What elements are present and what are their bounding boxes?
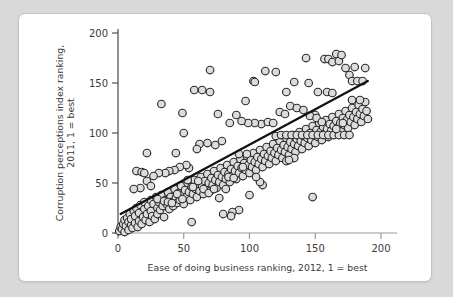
data-point <box>194 177 202 185</box>
chart-card: 050100150200050100150200 Ease of doing b… <box>18 13 432 282</box>
data-point <box>141 169 149 177</box>
data-point <box>158 100 166 108</box>
data-points-layer <box>116 50 372 236</box>
data-point <box>272 68 280 76</box>
data-point <box>206 88 214 96</box>
data-point <box>179 195 187 203</box>
data-point <box>309 193 317 201</box>
x-tick-label: 200 <box>371 243 390 254</box>
data-point <box>179 109 187 117</box>
y-tick-label: 50 <box>95 178 108 189</box>
data-point <box>329 89 337 97</box>
data-point <box>193 145 201 153</box>
data-point <box>130 185 138 193</box>
data-point <box>351 63 359 71</box>
data-point <box>363 107 371 115</box>
data-point <box>206 66 214 74</box>
data-point <box>318 118 326 126</box>
data-point <box>210 185 218 193</box>
data-point <box>243 150 251 158</box>
chart-figure: 050100150200050100150200 Ease of doing b… <box>19 14 433 283</box>
data-point <box>314 88 322 96</box>
data-point <box>281 110 289 118</box>
data-point <box>188 218 196 226</box>
data-point <box>215 194 223 202</box>
data-point <box>238 117 246 125</box>
data-point <box>251 78 259 86</box>
scatter-plot: 050100150200050100150200 Ease of doing b… <box>19 14 433 283</box>
x-tick-label: 150 <box>306 243 325 254</box>
data-point <box>204 139 212 147</box>
screenshot-root: 050100150200050100150200 Ease of doing b… <box>0 0 453 297</box>
x-tick-label: 100 <box>240 243 259 254</box>
data-point <box>252 173 260 181</box>
data-point <box>190 86 198 94</box>
y-tick-label: 0 <box>102 228 108 239</box>
data-point <box>356 96 364 104</box>
data-point <box>285 156 293 164</box>
data-point <box>332 125 340 133</box>
data-point <box>226 119 234 127</box>
y-tick-label: 100 <box>89 128 108 139</box>
data-point <box>290 78 298 86</box>
data-point <box>239 163 247 171</box>
data-point <box>346 131 354 139</box>
data-point <box>150 172 158 180</box>
x-tick-label: 0 <box>115 243 121 254</box>
y-axis-label-line1: Corruption perceptions index ranking, <box>54 45 65 221</box>
data-point <box>261 67 269 75</box>
data-point <box>364 115 372 123</box>
x-tick-label: 50 <box>177 243 190 254</box>
data-point <box>269 119 277 127</box>
data-point <box>302 54 310 62</box>
data-point <box>222 185 230 193</box>
data-point <box>219 210 227 218</box>
data-point <box>348 96 356 104</box>
data-point <box>147 182 155 190</box>
data-point <box>246 191 254 199</box>
y-tick-label: 150 <box>89 78 108 89</box>
y-tick-label: 200 <box>89 28 108 39</box>
y-axis-label-line2: 2011, 1 = best <box>65 98 76 168</box>
data-point <box>230 174 238 182</box>
data-point <box>168 199 176 207</box>
data-point <box>160 213 168 221</box>
data-point <box>172 149 180 157</box>
data-point <box>180 129 188 137</box>
data-point <box>339 119 347 127</box>
data-point <box>242 97 250 105</box>
data-point <box>342 64 350 72</box>
data-point <box>227 212 235 220</box>
data-point <box>305 79 313 87</box>
data-point <box>300 106 308 114</box>
data-point <box>361 64 369 72</box>
data-point <box>283 88 291 96</box>
data-point <box>214 110 222 118</box>
data-point <box>338 51 346 59</box>
data-point <box>198 86 206 94</box>
data-point <box>212 141 220 149</box>
x-axis-label: Ease of doing business ranking, 2012, 1 … <box>148 262 368 273</box>
data-point <box>143 149 151 157</box>
